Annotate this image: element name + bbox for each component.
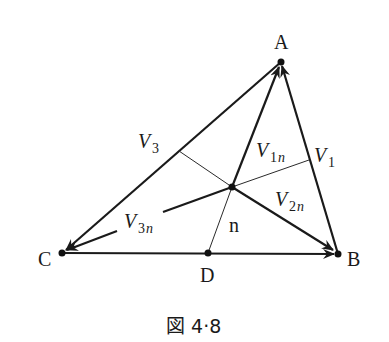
label-C: C [38,248,51,270]
svg-text:V: V [256,139,271,161]
perpendicular-to-AC [179,151,232,187]
svg-text:3: 3 [152,141,159,156]
label-D: D [200,264,214,286]
svg-text:n: n [146,221,153,236]
vector-C-to-B [62,253,334,254]
label-A: A [274,31,289,53]
svg-text:3: 3 [138,221,145,236]
vector-A-to-C [66,62,281,250]
svg-text:1: 1 [328,155,335,170]
vector-V3n-segment-1 [163,187,232,212]
vector-V3n-segment-2 [67,231,117,250]
label-V3: V 3 [138,130,159,156]
svg-text:n: n [278,150,285,165]
svg-text:V: V [138,130,153,152]
label-B: B [347,248,360,270]
point-D [205,250,212,257]
figure-caption: 図 4·8 [166,315,221,337]
svg-text:n: n [297,199,304,214]
label-V3n: V 3 n [124,210,153,236]
point-P [229,184,236,191]
svg-text:V: V [314,144,329,166]
label-V1: V 1 [314,144,335,170]
point-B [335,251,342,258]
svg-text:2: 2 [289,199,296,214]
label-V1n: V 1 n [256,139,285,165]
svg-text:V: V [124,210,139,232]
point-C [59,250,66,257]
svg-text:1: 1 [270,150,277,165]
svg-text:V: V [275,188,290,210]
triangle-vector-diagram: A B C D V 3 V 1 n V 1 V 2 n V 3 n n 図 4·… [0,0,389,342]
label-n: n [229,214,239,236]
label-V2n: V 2 n [275,188,304,214]
point-A [278,59,285,66]
